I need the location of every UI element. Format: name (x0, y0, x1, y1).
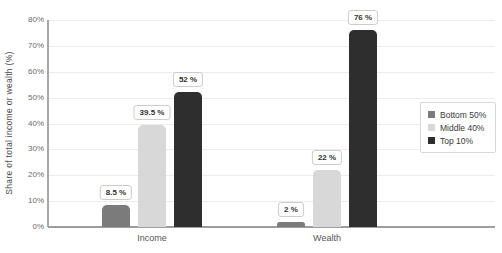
bar-income-bottom-50- (102, 205, 130, 227)
y-axis-title: Share of total income or wealth (%) (4, 51, 14, 194)
gridline-20% (48, 175, 495, 176)
bar-value-label-income-top-10-: 52 % (173, 72, 203, 87)
legend-item-middle-40-: Middle 40% (428, 121, 486, 134)
y-tick-label-10%: 10% (14, 196, 44, 206)
legend: Bottom 50%Middle 40%Top 10% (420, 102, 496, 153)
y-tick-label-50%: 50% (14, 93, 44, 103)
y-tick-label-0%: 0% (14, 222, 44, 232)
y-tick-label-60%: 60% (14, 67, 44, 77)
legend-label-bottom-50-: Bottom 50% (440, 110, 486, 120)
bar-value-label-wealth-top-10-: 76 % (348, 10, 378, 25)
gridline-80% (48, 20, 495, 21)
legend-swatch-icon-bottom-50- (428, 111, 435, 118)
y-tick-label-20%: 20% (14, 170, 44, 180)
bar-income-top-10- (174, 92, 202, 227)
bar-income-middle-40- (138, 125, 166, 227)
gridline-70% (48, 46, 495, 47)
y-tick-label-40%: 40% (14, 119, 44, 129)
x-category-label-wealth: Wealth (313, 233, 341, 243)
bar-chart: Share of total income or wealth (%) 0%10… (0, 0, 502, 253)
bar-value-label-income-bottom-50-: 8.5 % (100, 185, 132, 200)
y-axis-line (47, 20, 49, 227)
bar-value-label-wealth-bottom-50-: 2 % (278, 202, 304, 217)
legend-swatch-icon-top-10- (428, 137, 435, 144)
legend-swatch-icon-middle-40- (428, 124, 435, 131)
legend-item-top-10-: Top 10% (428, 134, 486, 147)
bar-value-label-wealth-middle-40-: 22 % (312, 150, 342, 165)
bar-wealth-bottom-50- (277, 222, 305, 227)
legend-label-top-10-: Top 10% (440, 136, 473, 146)
legend-label-middle-40-: Middle 40% (440, 123, 484, 133)
y-tick-label-80%: 80% (14, 15, 44, 25)
legend-item-bottom-50-: Bottom 50% (428, 108, 486, 121)
gridline-60% (48, 72, 495, 73)
bar-value-label-income-middle-40-: 39.5 % (134, 105, 171, 120)
y-tick-label-70%: 70% (14, 41, 44, 51)
gridline-10% (48, 201, 495, 202)
x-category-label-income: Income (137, 233, 167, 243)
y-tick-label-30%: 30% (14, 144, 44, 154)
gridline-50% (48, 98, 495, 99)
bar-wealth-middle-40- (313, 170, 341, 227)
bar-wealth-top-10- (349, 30, 377, 227)
